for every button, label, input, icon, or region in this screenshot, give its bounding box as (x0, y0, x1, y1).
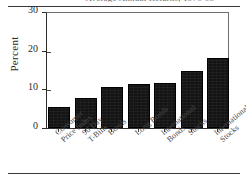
y-axis-inner-tick (47, 52, 51, 53)
x-axis-tick-mark (164, 129, 165, 132)
x-axis-labels: ConsumerPrice Index90 DayT-BillsBondsLon… (46, 131, 229, 177)
y-axis-inner-tick (47, 90, 51, 91)
x-axis-tick-mark (85, 129, 86, 132)
y-axis-tick-label: 30 (28, 5, 38, 15)
y-axis-tick-label: 20 (28, 44, 38, 54)
y-axis-ticks: 0102030 (0, 0, 46, 182)
plot-area (46, 12, 229, 129)
y-axis-tick-label: 10 (28, 82, 38, 92)
x-axis-tick-mark (191, 129, 192, 132)
bottom-rule (8, 173, 240, 174)
figure-container: Average Annual Returns, 1970-95 0102030 … (0, 0, 246, 182)
figure-caption: Average Annual Returns, 1970-95 (60, 0, 240, 2)
x-axis-tick-mark (111, 129, 112, 132)
y-axis-tick-label: 0 (33, 121, 38, 131)
x-axis-tick-mark (138, 129, 139, 132)
x-axis-tick-mark (58, 129, 59, 132)
x-axis-tick-mark (217, 129, 218, 132)
y-axis-label: Percent (8, 24, 20, 84)
